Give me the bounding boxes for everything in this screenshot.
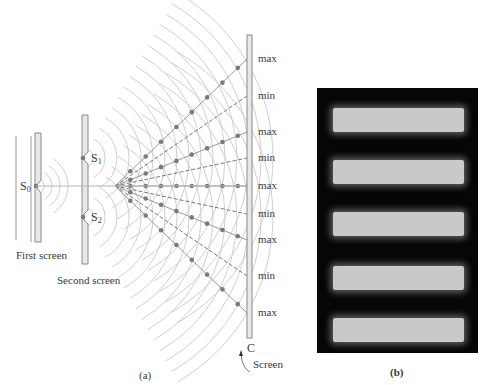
screen-mark-min: min xyxy=(258,90,275,101)
screen-mark-min: min xyxy=(258,152,275,163)
bright-fringe xyxy=(333,266,464,290)
source-s0-label: S0 xyxy=(20,180,31,194)
wavefronts xyxy=(40,0,273,382)
screen-label: Screen xyxy=(253,359,283,370)
screen-mark-max: max xyxy=(258,53,277,64)
double-slit-figure: S0 S1 S2 First screen Second screen C Sc… xyxy=(0,0,489,385)
screen-mark-max: max xyxy=(258,180,277,191)
screen-mark-max: max xyxy=(258,234,277,245)
part-a-label: (a) xyxy=(139,370,151,381)
screen-mark-min: min xyxy=(258,208,275,219)
slit-s2-label: S2 xyxy=(91,211,102,225)
second-screen-label: Second screen xyxy=(57,275,120,286)
bright-fringe xyxy=(333,318,464,342)
screen-mark-max: max xyxy=(258,126,277,137)
bright-fringe xyxy=(333,108,464,132)
first-screen-label: First screen xyxy=(16,250,67,261)
bright-fringe xyxy=(333,160,464,184)
viewing-screen xyxy=(247,35,252,338)
screen-point-c-label: C xyxy=(247,342,255,354)
screen-pointer-arrow xyxy=(241,354,250,372)
screen-mark-min: min xyxy=(258,270,275,281)
part-b-label: (b) xyxy=(390,367,403,378)
second-screen xyxy=(81,115,88,264)
slit-s2-dot xyxy=(81,215,86,220)
screen-mark-max: max xyxy=(258,307,277,318)
slit-s1-label: S1 xyxy=(91,152,102,166)
slit-s1-dot xyxy=(81,156,86,161)
fringe-photograph xyxy=(317,88,478,353)
bright-fringe xyxy=(333,212,464,236)
